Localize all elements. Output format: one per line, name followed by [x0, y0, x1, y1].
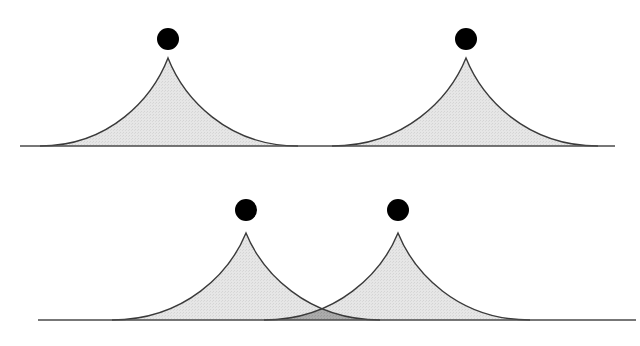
point-dot-1 — [157, 28, 179, 50]
panel-separated-peaks — [20, 28, 615, 146]
panel-overlapping-peaks — [38, 199, 636, 320]
peak-fill-2 — [332, 58, 598, 146]
peak-fill-1 — [40, 58, 298, 146]
point-dot-2 — [387, 199, 409, 221]
point-dot-2 — [455, 28, 477, 50]
overlapping-peaks-diagram — [0, 0, 640, 346]
point-dot-1 — [235, 199, 257, 221]
